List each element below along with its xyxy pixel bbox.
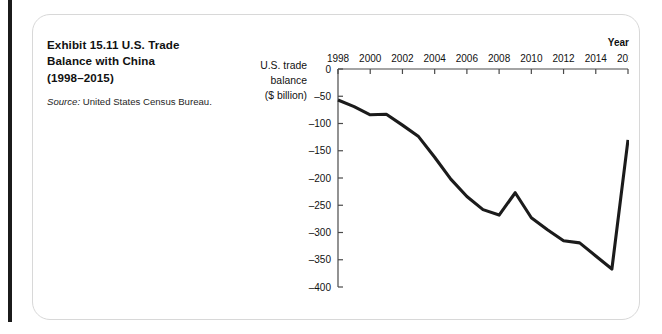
x-tick-label: 2006 [456, 53, 479, 64]
x-tick-label: 2008 [488, 53, 511, 64]
line-chart-plot: 0–50–100–150–200–250–300–350–400 1998200… [229, 37, 629, 307]
x-tick-label: 2000 [359, 53, 382, 64]
x-tick-label: 2016 [617, 53, 629, 64]
source-label: Source: [47, 96, 80, 107]
exhibit-card: Exhibit 15.11 U.S. Trade Balance with Ch… [32, 14, 640, 320]
y-tick-label: –350 [309, 254, 332, 265]
y-tick-label: –400 [309, 282, 332, 293]
y-tick-label: –100 [309, 118, 332, 129]
y-tick-label: –150 [309, 145, 332, 156]
exhibit-title: Exhibit 15.11 U.S. Trade Balance with Ch… [47, 37, 227, 86]
y-tick-label: –250 [309, 200, 332, 211]
source-text: United States Census Bureau. [80, 96, 212, 107]
x-tick-label: 2004 [424, 53, 447, 64]
caption-block: Exhibit 15.11 U.S. Trade Balance with Ch… [47, 37, 227, 109]
exhibit-title-line-3: (1998–2015) [47, 70, 227, 86]
chart-area: U.S. trade balance ($ billion) Year 0–50… [229, 37, 629, 307]
x-tick-label: 2010 [520, 53, 543, 64]
y-tick-label-group: 0–50–100–150–200–250–300–350–400 [309, 64, 332, 293]
y-tick-label: –50 [314, 91, 331, 102]
plot-wrap: 0–50–100–150–200–250–300–350–400 1998200… [229, 37, 629, 307]
x-tick-label-group: 1998200020022004200620082010201220142016 [327, 53, 629, 64]
exhibit-title-line-2: Balance with China [47, 53, 227, 69]
x-tick-label: 1998 [327, 53, 350, 64]
trade-balance-line [338, 100, 628, 269]
page-edge-bar [8, 0, 12, 322]
y-tick-label: –300 [309, 227, 332, 238]
tick-marks [338, 69, 628, 287]
x-tick-label: 2014 [585, 53, 608, 64]
x-tick-label: 2012 [552, 53, 575, 64]
y-tick-label: 0 [325, 64, 331, 75]
y-tick-label: –200 [309, 173, 332, 184]
exhibit-source: Source: United States Census Bureau. [47, 96, 227, 108]
exhibit-title-line-1: Exhibit 15.11 U.S. Trade [47, 37, 227, 53]
x-tick-label: 2002 [391, 53, 414, 64]
axis-lines [338, 69, 628, 287]
